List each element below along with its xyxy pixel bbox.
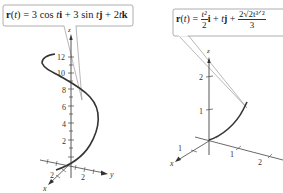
left-z-tick-12: 12 bbox=[57, 53, 65, 62]
right-x-tick-1: 1 bbox=[178, 144, 182, 153]
left-z-tick-6: 6 bbox=[62, 103, 66, 112]
right-x-axis bbox=[178, 141, 209, 160]
left-y-arrow-icon bbox=[101, 171, 108, 176]
left-y-label: y bbox=[109, 170, 114, 179]
right-y-tick-1: 1 bbox=[230, 150, 234, 159]
right-eq-frac1-num: t² bbox=[202, 9, 207, 19]
right-equation: r(t) = t²2i + tj + 2√2t³ᐟ²3 bbox=[176, 10, 266, 30]
right-eq-var: t bbox=[184, 13, 187, 24]
right-eq-frac2-den: 3 bbox=[238, 20, 266, 30]
right-z-tick-1: 1 bbox=[199, 107, 203, 116]
right-eq-lhs: r bbox=[176, 13, 180, 24]
right-x-label: x bbox=[169, 159, 174, 168]
left-z-label: z bbox=[67, 26, 71, 34]
right-eq-fraction-1: t²2 bbox=[201, 10, 208, 30]
right-y-tick-2: 2 bbox=[258, 158, 262, 167]
left-z-tick-4: 4 bbox=[62, 120, 66, 129]
right-z-tick-2: 2 bbox=[199, 73, 203, 82]
left-figure: z 12 10 8 6 4 2 2 y bbox=[3, 5, 133, 193]
left-eq-lhs: r bbox=[6, 9, 11, 20]
right-figure: z 2 1 1 2 1 x bbox=[169, 9, 283, 168]
right-callout-pointer bbox=[178, 35, 247, 108]
left-x-label: x bbox=[42, 184, 47, 193]
right-x-arrow-icon bbox=[175, 157, 181, 163]
right-eq-frac1-den: 2 bbox=[201, 20, 208, 30]
left-equation: r(t) = 3 cos ti + 3 sin tj + 2tk bbox=[6, 9, 128, 20]
right-eq-fraction-2: 2√2t³ᐟ²3 bbox=[238, 10, 266, 30]
left-z-tick-8: 8 bbox=[62, 86, 66, 95]
right-z-label: z bbox=[206, 47, 210, 55]
right-space-curve bbox=[209, 102, 247, 140]
right-eq-frac2-num: 2√2t³ᐟ² bbox=[238, 10, 266, 20]
left-helix-curve bbox=[42, 54, 98, 170]
left-eq-var: t bbox=[14, 9, 17, 20]
left-y-tick-2: 2 bbox=[81, 173, 85, 182]
left-x-tick-2: 2 bbox=[50, 171, 54, 180]
left-z-tick-2: 2 bbox=[62, 137, 66, 146]
